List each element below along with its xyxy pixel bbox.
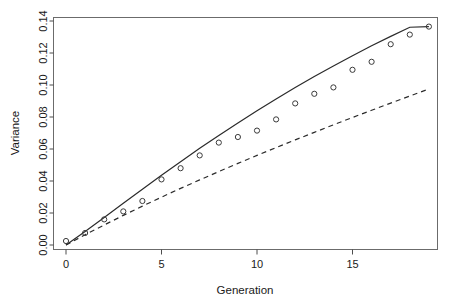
y-tick-label: 0.02 xyxy=(37,202,49,223)
x-tick-label: 15 xyxy=(346,258,358,270)
y-tick-label: 0.00 xyxy=(37,234,49,255)
chart-canvas: 0.000.020.040.060.080.100.120.14 051015 … xyxy=(0,0,454,302)
y-tick-label: 0.06 xyxy=(37,138,49,159)
x-tick-label: 0 xyxy=(63,258,69,270)
y-tick-label: 0.08 xyxy=(37,106,49,127)
y-tick-label: 0.14 xyxy=(37,10,49,31)
y-tick-label: 0.04 xyxy=(37,170,49,191)
y-tick-label: 0.12 xyxy=(37,42,49,63)
y-tick-label: 0.10 xyxy=(37,74,49,95)
variance-generation-chart: 0.000.020.040.060.080.100.120.14 051015 … xyxy=(0,0,454,302)
x-tick-label: 5 xyxy=(158,258,164,270)
y-axis-title: Variance xyxy=(9,111,21,156)
x-tick-label: 10 xyxy=(251,258,263,270)
x-axis-title: Generation xyxy=(217,284,274,296)
